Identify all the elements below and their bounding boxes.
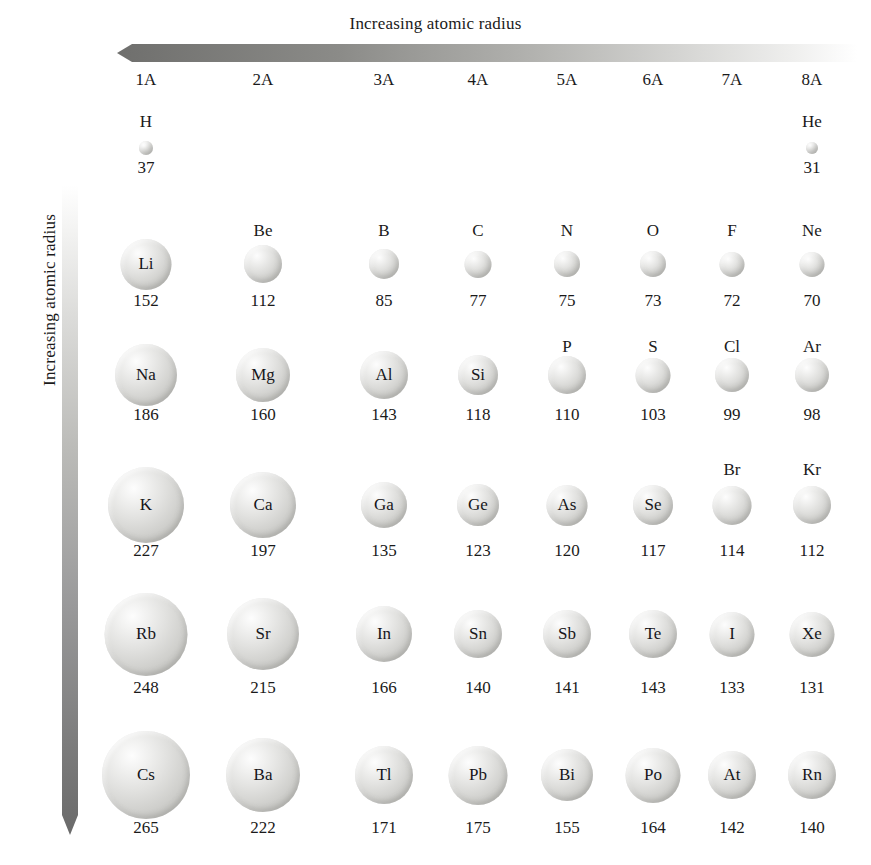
atom-sphere-al: Al — [360, 351, 408, 399]
atom-sphere-h: H — [139, 141, 153, 155]
radius-value-ca: 197 — [198, 541, 328, 561]
atom-sphere-xe: Xe — [790, 612, 835, 657]
radius-value-mg: 160 — [198, 405, 328, 425]
atom-sphere-ba: Ba — [226, 738, 300, 812]
sphere-symbol-po: Po — [644, 766, 662, 783]
atom-sphere-f: F — [720, 252, 745, 277]
sphere-symbol-si: Si — [471, 366, 485, 383]
sphere-symbol-rb: Rb — [136, 625, 156, 642]
atom-sphere-cl: Cl — [715, 358, 749, 392]
sphere-symbol-at: At — [724, 766, 741, 783]
sphere-symbol-xe: Xe — [802, 625, 822, 642]
sphere-symbol-sn: Sn — [469, 625, 487, 642]
sphere-symbol-tl: Tl — [376, 766, 391, 783]
sphere-symbol-rn: Rn — [802, 766, 822, 783]
atom-sphere-ne: Ne — [800, 252, 825, 277]
sphere-symbol-ga: Ga — [374, 496, 394, 513]
atom-sphere-he: He — [806, 142, 818, 154]
atom-sphere-o: O — [640, 251, 666, 277]
sphere-symbol-pb: Pb — [469, 766, 487, 783]
element-symbol-kr: Kr — [747, 461, 871, 481]
sphere-symbol-ca: Ca — [254, 496, 273, 513]
atom-sphere-sb: Sb — [543, 610, 591, 658]
atom-sphere-rb: Rb — [105, 593, 188, 676]
sphere-symbol-mg: Mg — [251, 366, 275, 383]
atom-sphere-in: In — [356, 606, 412, 662]
atom-sphere-p: P — [548, 356, 586, 394]
sphere-symbol-bi: Bi — [559, 766, 575, 783]
sphere-symbol-li: Li — [138, 255, 153, 272]
element-symbol-h: H — [81, 113, 211, 133]
atom-sphere-at: At — [708, 751, 756, 799]
atom-sphere-as: As — [547, 485, 588, 526]
atom-sphere-kr: Kr — [793, 486, 831, 524]
atom-sphere-ar: Ar — [795, 358, 829, 392]
sphere-symbol-te: Te — [645, 625, 662, 642]
radius-value-k: 227 — [81, 541, 211, 561]
atom-sphere-sn: Sn — [454, 610, 502, 658]
atom-sphere-po: Po — [626, 748, 681, 803]
radius-value-na: 186 — [81, 405, 211, 425]
atom-sphere-be: Be — [244, 245, 282, 283]
radius-value-li: 152 — [81, 291, 211, 311]
atom-sphere-bi: Bi — [541, 749, 593, 801]
atom-sphere-si: Si — [458, 355, 498, 395]
radius-value-kr: 112 — [747, 541, 871, 561]
radius-value-ne: 70 — [747, 291, 871, 311]
sphere-symbol-sr: Sr — [255, 625, 270, 642]
sphere-symbol-i: I — [729, 625, 735, 642]
sphere-symbol-ba: Ba — [254, 766, 273, 783]
sphere-symbol-cs: Cs — [137, 766, 155, 783]
sphere-symbol-al: Al — [376, 366, 393, 383]
element-symbol-ne: Ne — [747, 222, 871, 242]
radius-value-xe: 131 — [747, 678, 871, 698]
element-symbol-be: Be — [198, 222, 328, 242]
atom-sphere-sr: Sr — [227, 598, 299, 670]
atom-sphere-i: I — [710, 612, 755, 657]
atom-sphere-li: Li — [121, 239, 172, 290]
atom-sphere-pb: Pb — [449, 746, 508, 805]
atom-sphere-te: Te — [629, 610, 677, 658]
atom-sphere-n: N — [554, 251, 580, 277]
sphere-symbol-sb: Sb — [558, 625, 576, 642]
atomic-radius-grid: HH37HeHe31LiLi152BeBe112BB85CC77NN75OO73… — [0, 0, 871, 865]
atom-sphere-ge: Ge — [457, 484, 499, 526]
atom-sphere-ga: Ga — [361, 482, 407, 528]
atom-sphere-na: Na — [115, 344, 177, 406]
radius-value-rn: 140 — [747, 818, 871, 838]
atom-sphere-c: C — [465, 251, 492, 278]
radius-value-rb: 248 — [81, 678, 211, 698]
radius-value-cs: 265 — [81, 818, 211, 838]
sphere-symbol-in: In — [377, 625, 391, 642]
atom-sphere-se: Se — [633, 485, 673, 525]
radius-value-ba: 222 — [198, 818, 328, 838]
atom-sphere-ca: Ca — [230, 472, 296, 538]
sphere-symbol-as: As — [558, 496, 577, 513]
atom-sphere-s: S — [636, 358, 671, 393]
radius-value-be: 112 — [198, 291, 328, 311]
atom-sphere-b: B — [369, 249, 399, 279]
atom-sphere-br: Br — [713, 486, 752, 525]
radius-value-ar: 98 — [747, 405, 871, 425]
sphere-symbol-se: Se — [645, 496, 662, 513]
atom-sphere-cs: Cs — [102, 731, 190, 819]
radius-value-he: 31 — [747, 158, 871, 178]
radius-value-sr: 215 — [198, 678, 328, 698]
element-symbol-ar: Ar — [747, 338, 871, 358]
element-symbol-he: He — [747, 113, 871, 133]
sphere-symbol-na: Na — [136, 366, 156, 383]
atom-sphere-tl: Tl — [355, 746, 413, 804]
sphere-symbol-ge: Ge — [468, 496, 488, 513]
radius-value-h: 37 — [81, 158, 211, 178]
atom-sphere-rn: Rn — [788, 751, 836, 799]
atom-sphere-k: K — [108, 467, 184, 543]
atom-sphere-mg: Mg — [236, 348, 290, 402]
sphere-symbol-k: K — [140, 496, 152, 513]
